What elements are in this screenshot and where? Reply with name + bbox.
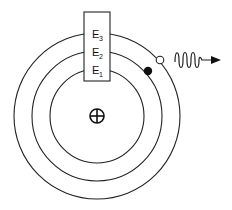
bohr-atom-diagram: E 3 E 2 E 1 bbox=[0, 0, 232, 210]
electron-filled bbox=[144, 67, 152, 75]
photon-wave-arrow-icon bbox=[175, 53, 221, 68]
svg-text:3: 3 bbox=[99, 35, 103, 42]
svg-text:2: 2 bbox=[99, 53, 103, 60]
svg-text:1: 1 bbox=[99, 71, 103, 78]
electron-hollow bbox=[156, 56, 164, 64]
nucleus-icon bbox=[90, 109, 104, 123]
